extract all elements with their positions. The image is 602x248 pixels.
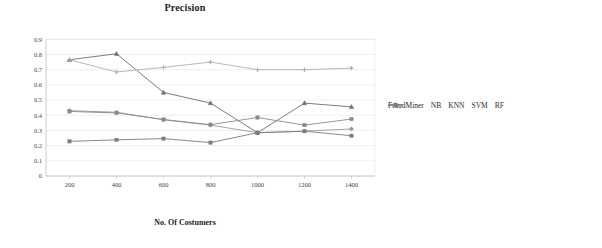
legend-label: SVM bbox=[472, 101, 488, 110]
data-point-marker bbox=[68, 140, 71, 143]
x-axis-tick-label: 200 bbox=[65, 181, 75, 188]
y-axis-tick-label: 0.4 bbox=[34, 112, 43, 119]
legend-label: RF bbox=[495, 101, 504, 110]
x-axis-tick-label: 800 bbox=[206, 181, 216, 188]
data-point-marker bbox=[303, 123, 306, 126]
data-point-marker bbox=[303, 129, 306, 132]
x-axis-tick-label: 400 bbox=[112, 181, 122, 188]
data-point-marker bbox=[162, 137, 165, 140]
series-rf bbox=[68, 129, 353, 144]
legend-item-nb[interactable]: NB bbox=[431, 101, 441, 110]
data-point-marker bbox=[256, 131, 259, 134]
x-axis-title: No. Of Costumers bbox=[0, 218, 370, 227]
legend-label: NB bbox=[431, 101, 441, 110]
data-point-marker bbox=[394, 103, 397, 106]
data-point-marker bbox=[68, 110, 71, 113]
data-point-marker bbox=[209, 123, 212, 126]
data-point-marker bbox=[115, 111, 118, 114]
chart-page: Precision 00.10.20.30.40.50.60.70.80.920… bbox=[0, 0, 602, 248]
y-axis-tick-label: 0.1 bbox=[34, 157, 42, 164]
x-axis-tick-label: 1400 bbox=[345, 181, 358, 188]
data-point-marker bbox=[162, 118, 165, 121]
data-point-marker bbox=[209, 141, 212, 144]
data-point-marker bbox=[115, 138, 118, 141]
data-point-marker bbox=[208, 60, 212, 64]
data-point-marker bbox=[114, 70, 118, 74]
x-axis-tick-label: 600 bbox=[159, 181, 169, 188]
y-axis-tick-label: 0.8 bbox=[34, 51, 42, 58]
data-point-marker bbox=[302, 67, 306, 71]
legend-item-knn[interactable]: KNN bbox=[448, 101, 464, 110]
data-point-marker bbox=[161, 65, 165, 69]
y-axis-tick-label: 0.6 bbox=[34, 81, 43, 88]
y-axis-tick-label: 0 bbox=[39, 172, 42, 179]
y-axis-tick-label: 0.7 bbox=[34, 66, 43, 73]
legend-item-rf[interactable]: RF bbox=[495, 101, 504, 110]
series-line bbox=[70, 111, 352, 133]
data-point-marker bbox=[114, 51, 118, 55]
y-axis-tick-label: 0.3 bbox=[34, 127, 42, 134]
y-axis-tick-label: 0.5 bbox=[34, 96, 42, 103]
x-axis-tick-label: 1000 bbox=[251, 181, 264, 188]
legend-label: KNN bbox=[448, 101, 464, 110]
legend-item-svm[interactable]: SVM bbox=[472, 101, 488, 110]
line-chart-plot: 00.10.20.30.40.50.60.70.80.9200400600800… bbox=[0, 0, 602, 248]
series-line bbox=[70, 54, 352, 133]
chart-legend: FraudMinerNBKNNSVMRF bbox=[388, 101, 504, 110]
data-point-marker bbox=[350, 117, 353, 120]
data-point-marker bbox=[256, 116, 259, 119]
y-axis-tick-label: 0.9 bbox=[34, 36, 42, 43]
data-point-marker bbox=[255, 67, 259, 71]
x-axis-tick-label: 1200 bbox=[298, 181, 311, 188]
series-knn bbox=[67, 58, 353, 75]
y-axis-tick-label: 0.2 bbox=[34, 142, 42, 149]
data-point-marker bbox=[350, 134, 353, 137]
legend-swatch-square-icon bbox=[388, 101, 403, 109]
